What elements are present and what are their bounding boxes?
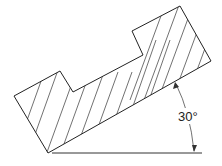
hatch-line <box>20 70 45 140</box>
hatch-line <box>186 5 221 100</box>
arrowhead-bottom-icon <box>192 145 197 152</box>
hatch-line <box>33 70 58 140</box>
part-outline <box>14 6 211 153</box>
hatch-line <box>144 5 179 100</box>
section-hatching <box>20 5 221 155</box>
hatch-line <box>116 40 156 155</box>
technical-drawing: 30° <box>0 0 222 166</box>
hatch-line <box>88 72 118 155</box>
hatch-line <box>60 72 90 155</box>
hatch-line <box>74 72 104 155</box>
hatch-line <box>130 5 165 100</box>
hatch-line <box>46 72 76 155</box>
angle-label: 30° <box>178 109 198 124</box>
